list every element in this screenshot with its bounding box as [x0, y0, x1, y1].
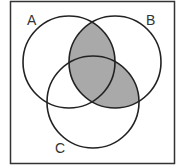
label-a: A: [27, 12, 37, 28]
venn-diagram: A B C: [0, 0, 177, 166]
label-b: B: [146, 12, 155, 28]
label-c: C: [55, 140, 65, 156]
